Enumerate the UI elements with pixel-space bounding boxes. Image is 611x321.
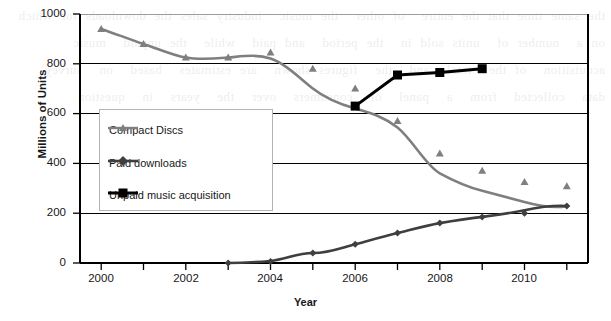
x-tick-marks [101,263,567,270]
legend-item-unpaid-music-acquisition[interactable]: Unpaid music acquisition [108,186,231,204]
x-tick-label-2008: 2008 [410,272,470,284]
x-tick-label-2006: 2006 [325,272,385,284]
series-unpaid-music-acquisition [351,64,487,110]
series-paid-downloads [225,203,571,267]
x-tick-label-2010: 2010 [494,272,554,284]
chart-container: the same time that the entire of other t… [0,0,611,321]
x-tick-label-2000: 2000 [71,272,131,284]
y-tick-label-200: 200 [20,206,66,218]
x-axis-title: Year [0,296,611,308]
legend-item-paid-downloads[interactable]: Paid downloads [108,154,187,172]
x-tick-label-2004: 2004 [240,272,300,284]
legend-marker-square-icon [108,186,138,200]
y-tick-marks [73,14,80,263]
chart-legend: Compact Discs Paid downloads Unpaid musi… [99,109,273,211]
x-tick-label-2002: 2002 [156,272,216,284]
legend-marker-triangle-icon [108,121,138,135]
y-tick-label-0: 0 [20,256,66,268]
legend-marker-diamond-icon [108,154,138,168]
y-tick-label-1000: 1000 [20,7,66,19]
y-axis-title: Millions of Units [36,54,48,174]
legend-item-compact-discs[interactable]: Compact Discs [108,121,183,139]
